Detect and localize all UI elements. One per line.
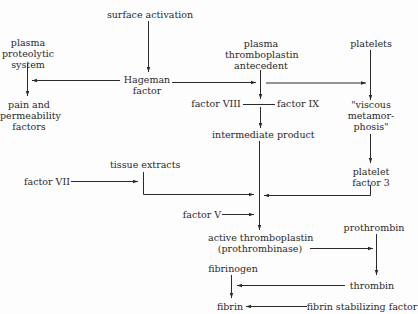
node-factor-viii: factor VIII — [190, 98, 242, 109]
node-intermediate-product: intermediate product — [212, 129, 308, 140]
node-plasma-proteolytic-system: plasma proteolytic system — [2, 37, 54, 70]
node-surface-activation: surface activation — [106, 9, 194, 20]
node-fibrinogen: fibrinogen — [207, 263, 259, 274]
arrow-tissue-to-main — [144, 172, 255, 195]
node-factor-ix: factor IX — [276, 98, 320, 109]
node-prothrombin: prothrombin — [342, 222, 406, 233]
node-thrombin: thrombin — [347, 280, 397, 291]
coagulation-diagram: surface activation plasma proteolytic sy… — [0, 0, 418, 314]
node-fibrin: fibrin — [213, 301, 247, 312]
node-tissue-extracts: tissue extracts — [110, 159, 180, 170]
node-factor-v: factor V — [182, 209, 222, 220]
node-platelet-factor-3: platelet factor 3 — [348, 166, 394, 188]
node-active-thromboplastin: active thromboplastin (prothrombinase) — [208, 232, 312, 254]
node-pain-permeability-factors: pain and permeability factors — [0, 99, 58, 132]
node-plasma-thromboplastin-antecedent: plasma thromboplastin antecedent — [225, 38, 297, 71]
node-platelets: platelets — [348, 38, 394, 49]
node-factor-vii: factor VII — [22, 176, 72, 187]
node-fibrin-stabilizing-factor: fibrin stabilizing factor — [306, 301, 418, 312]
node-viscous-metamorphosis: "viscous metamor- phosis" — [344, 99, 398, 132]
node-hageman-factor: Hageman factor — [122, 74, 172, 96]
